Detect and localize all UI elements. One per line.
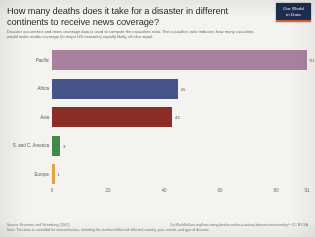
x-axis-tick: 0 <box>51 188 54 193</box>
page-title: How many deaths does it take for a disas… <box>7 6 269 27</box>
bar[interactable]: 3 <box>52 136 60 156</box>
category-label: Asia <box>40 115 49 120</box>
category-label: Pacific <box>36 58 49 63</box>
chart-plot-area: Pacific91Africa45Asia43S. and C. America… <box>0 48 315 208</box>
bar-row: Pacific91 <box>52 50 307 70</box>
bars-container: Pacific91Africa45Asia43S. and C. America… <box>52 48 307 186</box>
bar[interactable]: 1 <box>52 164 55 184</box>
bar-row: Asia43 <box>52 107 307 127</box>
x-axis-tick: 60 <box>218 188 223 193</box>
bar-row: Africa45 <box>52 79 307 99</box>
logo-line-2: in Data <box>286 12 301 17</box>
bar-row: Europe1 <box>52 164 307 184</box>
chart-footer: Source: Eisensee and Strömberg (2007) Ou… <box>7 223 308 232</box>
bar[interactable]: 43 <box>52 107 172 127</box>
x-axis-tick: 20 <box>105 188 110 193</box>
bar-rows: Pacific91Africa45Asia43S. and C. America… <box>52 48 307 186</box>
bar[interactable]: 45 <box>52 79 178 99</box>
x-axis-tick: 40 <box>162 188 167 193</box>
chart-header: How many deaths does it take for a disas… <box>7 6 269 40</box>
x-axis: 02040608091 <box>52 188 307 202</box>
bar-value-label: 45 <box>181 86 186 91</box>
chart-subtitle: Disaster occurrence and news coverage da… <box>7 29 262 39</box>
source-text: Source: Eisensee and Strömberg (2007) <box>7 223 70 227</box>
chart-page: How many deaths does it take for a disas… <box>0 0 315 237</box>
bar-value-label: 43 <box>175 115 180 120</box>
x-axis-tick: 91 <box>304 188 309 193</box>
category-label: S. and C. America <box>13 143 49 148</box>
category-label: Europe <box>34 172 49 177</box>
category-label: Africa <box>37 86 49 91</box>
bar-value-label: 91 <box>310 58 315 63</box>
bar-value-label: 3 <box>63 143 65 148</box>
note-text: Note: This data is controlled for severa… <box>7 228 308 232</box>
license-text[interactable]: OurWorldInData.org/how-many-deaths-make-… <box>170 223 308 227</box>
bar[interactable]: 91 <box>52 50 307 70</box>
bar-value-label: 1 <box>57 172 59 177</box>
bar-row: S. and C. America3 <box>52 136 307 156</box>
x-axis-tick: 80 <box>274 188 279 193</box>
our-world-in-data-logo[interactable]: Our World in Data <box>276 3 311 22</box>
